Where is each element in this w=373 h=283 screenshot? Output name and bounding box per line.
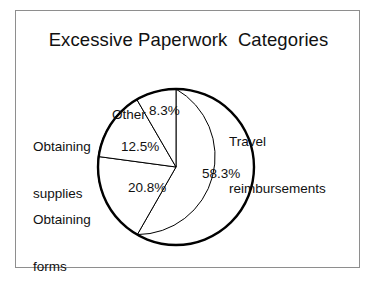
slice-label-travel-line2: reimbursements [229, 181, 326, 197]
slice-value-other: 8.3% [149, 103, 180, 118]
chart-frame: Excessive Paperwork Categories Other Obt… [15, 10, 360, 268]
slice-label-travel-reimbursements: Travel reimbursements [229, 103, 326, 227]
slice-label-obtaining-forms: Obtaining forms [33, 181, 91, 283]
slice-label-supplies-line1: Obtaining [33, 139, 91, 155]
slice-label-forms-line1: Obtaining [33, 212, 91, 228]
slice-value-travel-reimbursements: 58.3% [202, 166, 240, 181]
slice-label-travel-line1: Travel [229, 134, 326, 150]
slice-value-obtaining-supplies: 12.5% [121, 139, 159, 154]
slice-label-forms-line2: forms [33, 259, 91, 275]
slice-value-obtaining-forms: 20.8% [128, 180, 166, 195]
slice-label-other-line1: Other [112, 107, 146, 123]
